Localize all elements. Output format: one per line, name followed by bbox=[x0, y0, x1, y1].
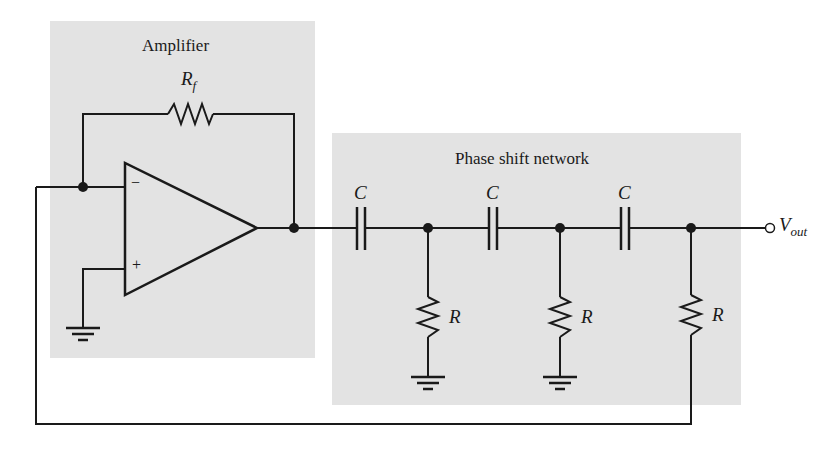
junction-dot bbox=[78, 182, 88, 192]
phase-shift-network-label: Phase shift network bbox=[455, 149, 589, 169]
resistor-2-icon bbox=[550, 297, 570, 337]
ground-icon bbox=[543, 377, 577, 389]
junction-dot bbox=[555, 223, 565, 233]
resistor-1-label: R bbox=[449, 306, 461, 328]
capacitor-1-label: C bbox=[354, 182, 367, 204]
ground-icon bbox=[411, 377, 445, 389]
output-terminal-icon bbox=[766, 224, 775, 233]
noninverting-sign: + bbox=[132, 256, 141, 274]
rf-label: Rf bbox=[181, 68, 196, 90]
resistor-3-icon bbox=[681, 295, 701, 335]
opamp-icon bbox=[125, 163, 257, 295]
vout-label: Vout bbox=[779, 214, 807, 236]
junction-dot bbox=[423, 223, 433, 233]
feedback-wire-right bbox=[213, 114, 294, 228]
junction-dot bbox=[289, 223, 299, 233]
junction-dot bbox=[686, 223, 696, 233]
resistor-2-label: R bbox=[581, 306, 593, 328]
capacitor-3-label: C bbox=[618, 182, 631, 204]
ground-icon bbox=[66, 328, 100, 340]
amplifier-label: Amplifier bbox=[142, 36, 209, 56]
noninverting-ground-wire bbox=[83, 269, 125, 328]
circuit-schematic bbox=[0, 0, 839, 453]
resistor-3-label: R bbox=[712, 304, 724, 326]
resistor-1-icon bbox=[418, 297, 438, 337]
inverting-sign: − bbox=[131, 174, 140, 192]
capacitor-2-label: C bbox=[486, 182, 499, 204]
rf-resistor-icon bbox=[168, 104, 213, 124]
